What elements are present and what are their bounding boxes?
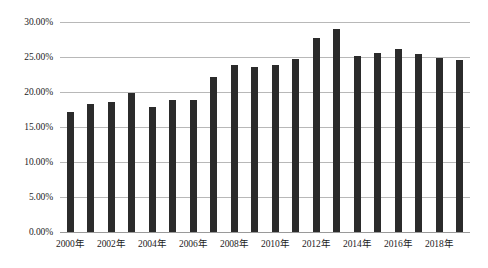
gridline-15.00pct [60,127,470,128]
bar [333,29,340,232]
bar [67,112,74,232]
x-axis-tick-label: 2012年 [302,236,331,250]
gridline-5.00pct [60,197,470,198]
bar [436,58,443,232]
x-axis: 2000年2002年2004年2006年2008年2010年2012年2014年… [60,236,470,254]
gridline-10.00pct [60,162,470,163]
x-axis-tick-label: 2004年 [138,236,167,250]
bar [251,67,258,232]
x-axis-tick-label: 2002年 [97,236,126,250]
x-axis-tick-label: 2000年 [56,236,85,250]
y-axis-tick-label: 15.00% [24,122,53,132]
y-axis: 0.00%5.00%10.00%15.00%20.00%25.00%30.00% [0,0,57,268]
bar [292,59,299,232]
gridline-30.00pct [60,22,470,23]
x-axis-tick-label: 2016年 [384,236,413,250]
y-axis-tick-label: 25.00% [24,52,53,62]
gridline-0.00pct [60,232,470,233]
bar [313,38,320,232]
gridline-20.00pct [60,92,470,93]
x-axis-tick-label: 2014年 [343,236,372,250]
plot-area [60,22,470,232]
bar [354,56,361,232]
bar [169,100,176,232]
bar [456,60,463,232]
y-axis-tick-label: 20.00% [24,87,53,97]
y-axis-tick-label: 10.00% [24,157,53,167]
bar [231,65,238,232]
bar [395,49,402,232]
bar [272,65,279,232]
bar [374,53,381,232]
bar [128,93,135,232]
bar [87,104,94,232]
bar [190,100,197,232]
bar-chart: 0.00%5.00%10.00%15.00%20.00%25.00%30.00%… [0,0,488,268]
bar [149,107,156,232]
y-axis-tick-label: 0.00% [29,227,53,237]
y-axis-tick-label: 30.00% [24,17,53,27]
y-axis-tick-label: 5.00% [29,192,53,202]
bar [415,54,422,233]
gridline-25.00pct [60,57,470,58]
x-axis-tick-label: 2008年 [220,236,249,250]
x-axis-tick-label: 2018年 [425,236,454,250]
x-axis-tick-label: 2006年 [179,236,208,250]
bar [210,77,217,232]
x-axis-tick-label: 2010年 [261,236,290,250]
bar [108,102,115,232]
